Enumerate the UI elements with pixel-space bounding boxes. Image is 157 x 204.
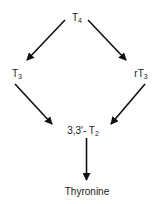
node-prefix: 3,3′- bbox=[67, 125, 89, 136]
arrow-t4-to-t3 bbox=[27, 20, 65, 60]
node-rt3: rT3 bbox=[134, 68, 147, 80]
arrow-rt3-to-t2 bbox=[111, 84, 145, 124]
node-t2: 3,3′- T2 bbox=[67, 125, 99, 137]
node-thyronine: Thyronine bbox=[65, 186, 109, 198]
node-subscript: 3 bbox=[144, 73, 148, 80]
node-subscript: 2 bbox=[95, 130, 99, 137]
arrow-t3-to-t2 bbox=[15, 84, 52, 124]
node-subscript: 4 bbox=[78, 17, 82, 24]
node-t3: T3 bbox=[12, 68, 22, 80]
node-subscript: 3 bbox=[18, 73, 22, 80]
pathway-arrows bbox=[0, 0, 157, 204]
node-label: Thyronine bbox=[65, 186, 109, 197]
node-t4: T4 bbox=[72, 12, 82, 24]
arrow-t4-to-rt3 bbox=[88, 20, 126, 60]
